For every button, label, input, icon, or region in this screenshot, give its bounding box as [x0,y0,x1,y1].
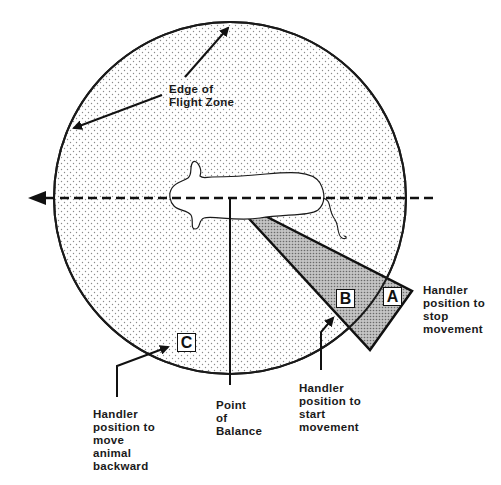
handler-stop-label: Handler position to stop movement [423,284,485,336]
axis-arrow-left-icon [28,191,46,205]
marker-c: C [177,333,196,352]
marker-a: A [383,287,402,306]
edge-of-flight-zone-label: Edge of Flight Zone [169,83,234,109]
marker-b: B [336,289,355,308]
point-of-balance-label: Point of Balance [216,399,262,438]
handler-start-label: Handler position to start movement [299,382,361,434]
handler-backward-label: Handler position to move animal backward [93,408,155,473]
